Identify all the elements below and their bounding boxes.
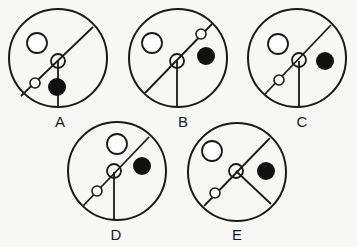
- small-open-circle: [92, 186, 102, 196]
- large-open-circle: [202, 141, 222, 161]
- small-open-circle: [210, 188, 220, 198]
- black-dot: [197, 47, 215, 65]
- black-dot: [48, 78, 66, 96]
- option-label: E: [232, 226, 242, 243]
- option-label: A: [55, 113, 65, 130]
- large-open-circle: [142, 33, 162, 53]
- small-open-circle: [30, 78, 40, 88]
- small-open-circle: [274, 75, 284, 85]
- large-open-circle: [27, 33, 47, 53]
- black-dot: [133, 157, 151, 175]
- option-b[interactable]: B: [129, 9, 227, 130]
- option-label: C: [297, 113, 308, 130]
- option-label: D: [111, 226, 122, 243]
- option-c[interactable]: C: [248, 9, 346, 130]
- option-d[interactable]: D: [68, 122, 166, 243]
- option-e[interactable]: E: [188, 123, 286, 243]
- large-open-circle: [107, 134, 127, 154]
- option-label: B: [178, 113, 188, 130]
- option-a[interactable]: A: [9, 9, 107, 130]
- black-dot: [257, 162, 275, 180]
- large-open-circle: [268, 34, 288, 54]
- puzzle-diagram: ABCDE: [0, 0, 357, 247]
- small-open-circle: [196, 29, 206, 39]
- black-dot: [316, 52, 334, 70]
